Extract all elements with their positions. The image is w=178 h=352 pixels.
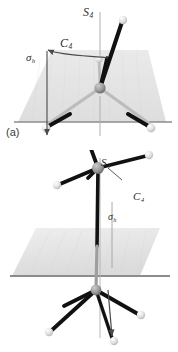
atom-center bbox=[94, 82, 105, 93]
s4-symbol-b: S bbox=[101, 156, 107, 168]
atom-ligand-lower-right bbox=[147, 124, 156, 133]
sigma-symbol: σ bbox=[26, 51, 31, 63]
c4-symbol: C bbox=[60, 36, 68, 50]
c4-subscript: 4 bbox=[68, 42, 72, 51]
atom-center-lower bbox=[91, 285, 102, 296]
mirror-plane-vertical bbox=[18, 50, 166, 122]
bond-vertical-through-plane bbox=[97, 168, 98, 246]
sigma-subscript: h bbox=[32, 57, 35, 64]
panel-b-s4-label: S4 bbox=[101, 157, 110, 170]
panel-a-caption: (a) bbox=[6, 126, 19, 138]
c4-tick bbox=[108, 168, 122, 180]
panel-b-sigma-h-label: σh bbox=[108, 212, 116, 223]
bond-vertical-below-plane bbox=[96, 246, 97, 290]
panel-a-sigma-h-label: σh bbox=[26, 52, 35, 65]
atom-lower-bottom bbox=[110, 337, 118, 345]
panel-a-c4-label: C4 bbox=[60, 37, 72, 50]
c4-symbol-b: C bbox=[133, 190, 140, 202]
c4-subscript-b: 4 bbox=[141, 196, 144, 203]
sigma-subscript-b: h bbox=[113, 216, 116, 223]
s4-subscript-b: 4 bbox=[107, 162, 110, 169]
atom-lower-right bbox=[137, 311, 145, 319]
s4-subscript: 4 bbox=[89, 11, 93, 20]
atom-ligand-upper-right bbox=[119, 16, 127, 24]
bonds-lower bbox=[52, 290, 138, 338]
atom-upper-right bbox=[145, 151, 153, 159]
atom-lower-left bbox=[45, 328, 53, 336]
panel-b-graphics bbox=[0, 150, 178, 352]
panel-b-c4-label: C4 bbox=[133, 191, 144, 204]
atom-upper-left bbox=[53, 181, 61, 189]
panel-b: (b) bbox=[0, 150, 178, 352]
panel-a-s4-label: S4 bbox=[83, 6, 93, 19]
atom-ligand-lower-left bbox=[42, 124, 51, 133]
symmetry-figure: (a) S4 C4 σh bbox=[0, 0, 178, 352]
